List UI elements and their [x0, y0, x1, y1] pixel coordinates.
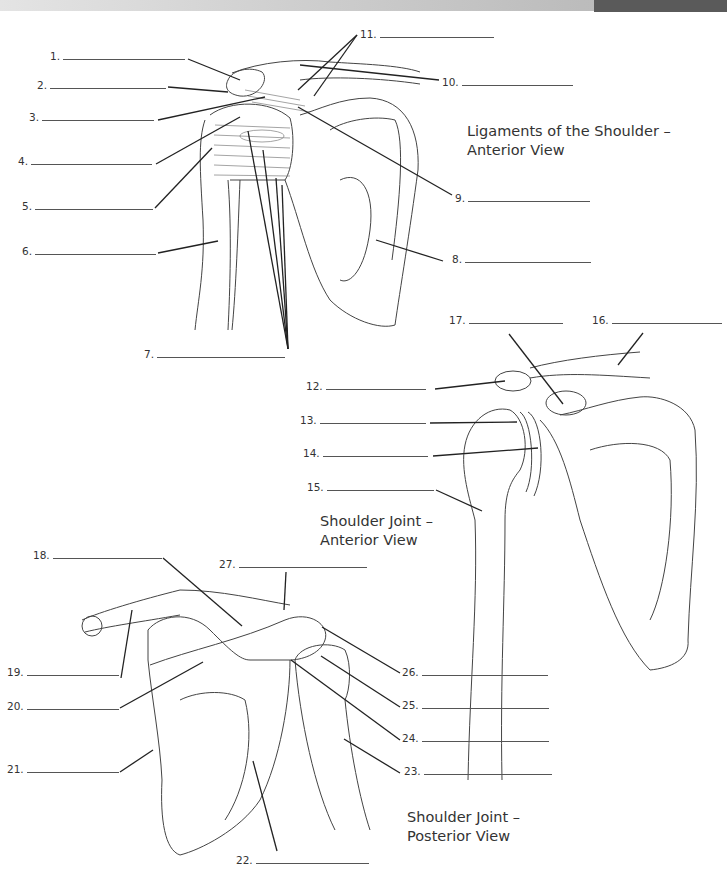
answer-blank[interactable]: [27, 771, 119, 773]
label-19: 19.: [7, 666, 119, 678]
joint-anterior-illustration: [464, 352, 697, 780]
answer-blank[interactable]: [465, 261, 591, 263]
label-18: 18.: [33, 549, 162, 561]
answer-blank[interactable]: [27, 708, 119, 710]
answer-blank[interactable]: [323, 455, 428, 457]
answer-blank[interactable]: [31, 163, 152, 165]
label-24: 24.: [402, 732, 549, 744]
label-7: 7.: [144, 348, 285, 360]
label-5: 5.: [22, 200, 153, 212]
answer-blank[interactable]: [320, 422, 426, 424]
label-17: 17.: [449, 314, 563, 326]
label-4: 4.: [18, 155, 152, 167]
label-25: 25.: [402, 699, 549, 711]
label-1: 1.: [50, 50, 185, 62]
label-15: 15.: [307, 481, 434, 493]
label-6: 6.: [22, 245, 156, 257]
answer-blank[interactable]: [469, 322, 563, 324]
label-22: 22.: [236, 854, 369, 866]
label-13: 13.: [300, 414, 426, 426]
label-20: 20.: [7, 700, 119, 712]
label-14: 14.: [303, 447, 428, 459]
answer-blank[interactable]: [462, 84, 573, 86]
answer-blank[interactable]: [35, 253, 156, 255]
answer-blank[interactable]: [422, 707, 549, 709]
answer-blank[interactable]: [424, 773, 552, 775]
label-2: 2.: [37, 79, 166, 91]
answer-blank[interactable]: [422, 674, 548, 676]
answer-blank[interactable]: [327, 489, 434, 491]
answer-blank[interactable]: [326, 388, 426, 390]
answer-blank[interactable]: [42, 119, 154, 121]
answer-blank[interactable]: [35, 208, 153, 210]
label-26: 26.: [402, 666, 548, 678]
label-11: 11.: [360, 28, 494, 40]
diagram-title-joint-posterior: Shoulder Joint – Posterior View: [407, 808, 520, 846]
answer-blank[interactable]: [50, 87, 166, 89]
label-8: 8.: [452, 253, 591, 265]
ligament-fibers: [214, 90, 310, 176]
answer-blank[interactable]: [53, 557, 162, 559]
label-23: 23.: [404, 765, 552, 777]
answer-blank[interactable]: [27, 674, 119, 676]
ligaments-anterior-illustration: [195, 60, 420, 330]
answer-blank[interactable]: [256, 862, 369, 864]
label-16: 16.: [592, 314, 722, 326]
label-9: 9.: [455, 192, 590, 204]
label-27: 27.: [219, 558, 367, 570]
label-3: 3.: [29, 111, 154, 123]
label-10: 10.: [442, 76, 573, 88]
answer-blank[interactable]: [63, 58, 185, 60]
answer-blank[interactable]: [380, 36, 494, 38]
diagram-title-ligaments-anterior: Ligaments of the Shoulder – Anterior Vie…: [467, 122, 671, 160]
answer-blank[interactable]: [468, 200, 590, 202]
diagram-title-joint-anterior: Shoulder Joint – Anterior View: [320, 512, 433, 550]
answer-blank[interactable]: [157, 356, 285, 358]
label-21: 21.: [7, 763, 119, 775]
label-12: 12.: [306, 380, 426, 392]
answer-blank[interactable]: [612, 322, 722, 324]
answer-blank[interactable]: [422, 740, 549, 742]
answer-blank[interactable]: [239, 566, 367, 568]
